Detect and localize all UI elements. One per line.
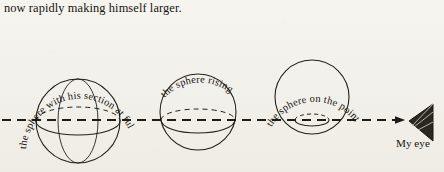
label-sphere-vanishing-text: the sphere on the point of vanishing — [0, 0, 363, 128]
section-front-arc — [36, 121, 120, 135]
label-sphere-vanishing: the sphere on the point of vanishing — [0, 0, 363, 128]
eye-label: My eye — [396, 137, 430, 150]
section-back-arc — [161, 109, 235, 120]
label-sphere-rising: the sphere rising — [158, 73, 235, 99]
illustration-page: now rapidly making himself larger. — [0, 0, 444, 172]
label-sphere-rising-text: the sphere rising — [158, 73, 235, 99]
eye-wedge-icon — [409, 104, 433, 141]
section-front-arc — [161, 120, 235, 133]
sphere-diagram: the sphere with his section at full size… — [0, 0, 444, 172]
